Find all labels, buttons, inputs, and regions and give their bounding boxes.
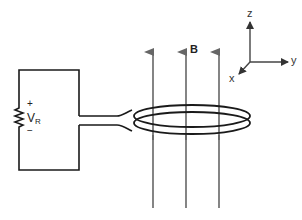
field-label-b: B: [190, 44, 198, 55]
x-axis: [239, 62, 250, 74]
x-axis-label: x: [229, 73, 235, 84]
resistor-voltage-label: VR: [27, 112, 41, 126]
minus-sign: −: [27, 126, 33, 136]
magnetic-field-lines: [153, 52, 219, 208]
voltage-subscript: R: [35, 117, 41, 126]
z-axis-label: z: [247, 8, 253, 19]
voltage-symbol: V: [27, 111, 35, 125]
circuit-wire: [15, 70, 79, 170]
coordinate-axes: [239, 22, 288, 74]
y-axis-label: y: [291, 55, 297, 66]
plus-sign: +: [27, 99, 33, 109]
field-line-overlap: [153, 135, 219, 140]
diagram-svg: [0, 0, 302, 220]
diagram-canvas: B + VR − z y x: [0, 0, 302, 220]
current-loop: [134, 105, 250, 134]
lead-top: [79, 110, 132, 116]
lead-bottom: [79, 125, 132, 131]
